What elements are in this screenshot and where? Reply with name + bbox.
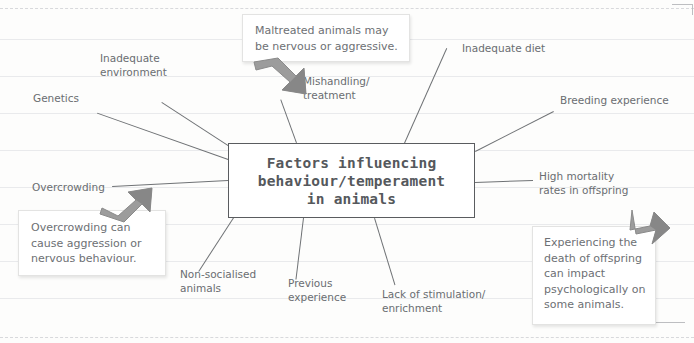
connector-genetics bbox=[97, 113, 228, 160]
connector-lack-of-stimulation bbox=[374, 218, 395, 285]
connector-previous-experience bbox=[295, 218, 304, 280]
connector-high-mortality bbox=[475, 180, 533, 183]
arrow-down-right-icon bbox=[252, 56, 310, 98]
branch-label-inadequate-environment[interactable]: Inadequate environment bbox=[100, 52, 210, 79]
branch-label-non-socialised[interactable]: Non-socialised animals bbox=[180, 268, 290, 295]
central-node-title: Factors influencing behaviour/temperamen… bbox=[258, 154, 446, 208]
arrow-up-right-icon bbox=[98, 186, 156, 226]
mind-map-diagram: Factors influencing behaviour/temperamen… bbox=[0, 0, 694, 343]
callout-maltreated[interactable]: Maltreated animals may be nervous or agg… bbox=[242, 14, 410, 62]
connector-breeding-experience bbox=[475, 111, 554, 152]
branch-label-lack-of-stimulation[interactable]: Lack of stimulation/ enrichment bbox=[382, 288, 517, 315]
callout-overcrowding-text: Overcrowding can cause aggression or ner… bbox=[31, 220, 159, 267]
connector-non-socialised bbox=[198, 217, 234, 271]
branch-label-high-mortality[interactable]: High mortality rates in offspring bbox=[539, 170, 669, 197]
top-dashed-edge bbox=[0, 8, 694, 9]
connector-mishandling-treatment bbox=[280, 99, 297, 143]
bottom-dashed-edge bbox=[0, 337, 694, 338]
branch-label-inadequate-diet[interactable]: Inadequate diet bbox=[462, 42, 582, 56]
arrow-up-left-icon bbox=[628, 200, 672, 248]
branch-label-breeding-experience[interactable]: Breeding experience bbox=[560, 94, 690, 108]
callout-maltreated-text: Maltreated animals may be nervous or agg… bbox=[255, 23, 405, 54]
top-right-corner-mark bbox=[672, 4, 693, 15]
central-node[interactable]: Factors influencing behaviour/temperamen… bbox=[228, 143, 475, 218]
rule-line bbox=[0, 113, 694, 114]
branch-label-mishandling-treatment[interactable]: Mishandling/ treatment bbox=[303, 75, 413, 102]
branch-label-genetics[interactable]: Genetics bbox=[33, 92, 123, 106]
branch-label-previous-experience[interactable]: Previous experience bbox=[288, 277, 388, 304]
connector-inadequate-environment bbox=[161, 102, 231, 148]
